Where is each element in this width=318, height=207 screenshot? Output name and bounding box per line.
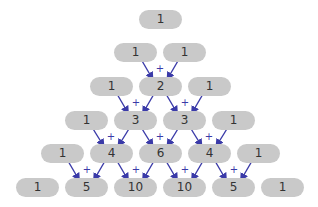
plus-icon: +	[106, 132, 116, 142]
number-cell: 1	[237, 144, 280, 163]
arrow-icon	[168, 128, 179, 145]
plus-icon: +	[204, 132, 214, 142]
number-cell: 4	[90, 144, 133, 163]
pascal-triangle-diagram: 11112113311464115101051++++++++++	[0, 0, 318, 207]
arrow-icon	[95, 161, 106, 179]
number-cell: 6	[139, 144, 182, 163]
arrow-icon	[242, 161, 253, 179]
arrow-icon	[144, 161, 155, 179]
number-cell: 1	[41, 144, 84, 163]
arrow-icon	[142, 128, 153, 145]
number-cell: 1	[90, 77, 133, 96]
number-cell: 1	[65, 111, 108, 130]
number-cell: 5	[65, 178, 108, 197]
arrow-icon	[168, 60, 179, 78]
plus-icon: +	[82, 165, 92, 175]
plus-icon: +	[155, 132, 165, 142]
arrow-icon	[93, 128, 104, 145]
number-cell: 1	[261, 178, 304, 197]
number-cell: 4	[188, 144, 231, 163]
number-cell: 1	[114, 43, 157, 62]
number-cell: 3	[114, 111, 157, 130]
arrow-icon	[191, 128, 202, 145]
number-cell: 10	[114, 178, 157, 197]
arrow-icon	[117, 94, 128, 112]
number-cell: 1	[139, 10, 182, 29]
plus-icon: +	[131, 165, 141, 175]
plus-icon: +	[155, 64, 165, 74]
plus-icon: +	[131, 98, 141, 108]
arrow-icon	[193, 94, 204, 112]
plus-icon: +	[180, 165, 190, 175]
arrow-icon	[166, 94, 177, 112]
number-cell: 1	[16, 178, 59, 197]
plus-icon: +	[229, 165, 239, 175]
arrow-icon	[193, 161, 204, 179]
arrow-icon	[142, 60, 153, 78]
plus-icon: +	[180, 98, 190, 108]
number-cell: 1	[188, 77, 231, 96]
arrows-layer	[0, 0, 318, 207]
number-cell: 2	[139, 77, 182, 96]
number-cell: 1	[163, 43, 206, 62]
number-cell: 10	[163, 178, 206, 197]
arrow-icon	[119, 128, 130, 145]
number-cell: 1	[212, 111, 255, 130]
arrow-icon	[166, 161, 177, 179]
number-cell: 3	[163, 111, 206, 130]
arrow-icon	[217, 128, 228, 145]
arrow-icon	[144, 94, 155, 112]
arrow-icon	[68, 161, 79, 179]
arrow-icon	[215, 161, 226, 179]
arrow-icon	[117, 161, 128, 179]
number-cell: 5	[212, 178, 255, 197]
